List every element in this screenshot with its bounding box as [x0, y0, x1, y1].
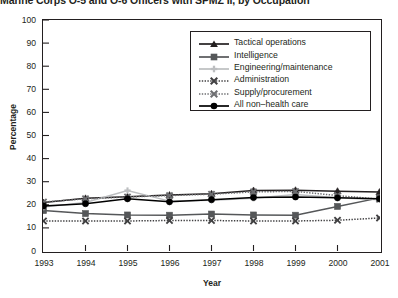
legend-label: Tactical operations: [234, 37, 306, 47]
legend-marker-circle-icon: [197, 98, 231, 110]
y-tick-label: 40: [2, 153, 36, 163]
legend-label: All non–health care: [234, 99, 308, 109]
legend-item: All non–health care: [197, 98, 370, 110]
legend-label: Engineering/maintenance: [234, 62, 333, 72]
chart-title: Marine Corps O-5 and O-6 Officers with S…: [0, 0, 398, 6]
x-tick-label: 1995: [108, 258, 148, 268]
legend-item: Supply/procurement: [197, 86, 370, 98]
legend-marker-x-cross-icon: [197, 86, 231, 98]
x-tick-label: 1999: [276, 258, 316, 268]
x-tick-label: 1998: [234, 258, 274, 268]
x-tick-label: 1996: [150, 258, 190, 268]
x-axis-title: Year: [42, 278, 382, 288]
x-tick-label: 1994: [66, 258, 106, 268]
legend-item: Administration: [197, 73, 370, 85]
y-tick-label: 30: [2, 176, 36, 186]
legend-marker-plus-icon: [197, 61, 231, 73]
legend-label: Supply/procurement: [234, 87, 312, 97]
x-tick-label: 1993: [24, 258, 64, 268]
y-tick-label: 70: [2, 84, 36, 94]
legend-item: Engineering/maintenance: [197, 61, 370, 73]
y-tick-label: 60: [2, 107, 36, 117]
legend-marker-triangle-up-icon: [197, 36, 231, 48]
y-tick-label: 90: [2, 38, 36, 48]
legend-label: Administration: [234, 74, 289, 84]
chart-page: Marine Corps O-5 and O-6 Officers with S…: [0, 0, 398, 298]
x-tick-label: 1997: [192, 258, 232, 268]
x-tick-label: 2001: [360, 258, 398, 268]
y-tick-label: 20: [2, 199, 36, 209]
y-tick-label: 50: [2, 130, 36, 140]
legend-item: Intelligence: [197, 48, 370, 60]
y-tick-label: 80: [2, 61, 36, 71]
y-tick-label: 10: [2, 222, 36, 232]
chart-legend: Tactical operationsIntelligenceEngineeri…: [190, 31, 371, 111]
legend-marker-x-cross-icon: [197, 73, 231, 85]
y-tick-label: 100: [2, 15, 36, 25]
legend-item: Tactical operations: [197, 36, 370, 48]
legend-marker-square-icon: [197, 49, 231, 61]
legend-label: Intelligence: [234, 50, 278, 60]
y-tick-label: 0: [2, 246, 36, 256]
x-tick-label: 2000: [318, 258, 358, 268]
